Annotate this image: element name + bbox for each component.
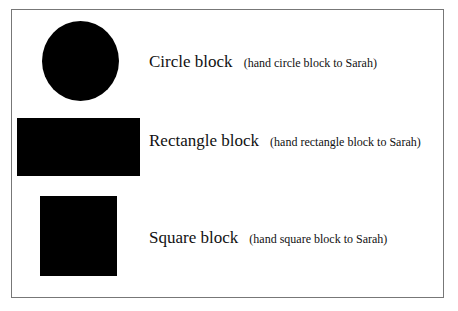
cut-off-text-line [10, 0, 210, 2]
rectangle-block-shape [17, 118, 140, 176]
circle-block-caption: Circle block (hand circle block to Sarah… [149, 52, 377, 72]
circle-block-shape [42, 21, 119, 101]
square-block-label: Square block [149, 228, 238, 247]
square-block-caption: Square block (hand square block to Sarah… [149, 228, 387, 248]
rectangle-block-caption: Rectangle block (hand rectangle block to… [149, 131, 421, 151]
rectangle-block-instruction: (hand rectangle block to Sarah) [270, 135, 421, 149]
square-block-shape [40, 196, 117, 276]
rectangle-block-label: Rectangle block [149, 131, 259, 150]
circle-block-label: Circle block [149, 52, 233, 71]
circle-block-instruction: (hand circle block to Sarah) [244, 56, 377, 70]
square-block-instruction: (hand square block to Sarah) [249, 232, 387, 246]
